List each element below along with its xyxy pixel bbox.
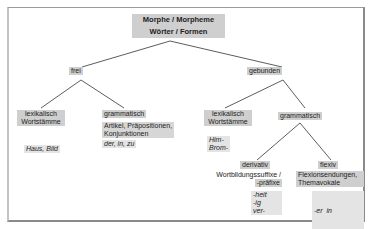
geb-lex-label2: Wortstämme [204,118,252,126]
node-gebunden-grammatisch: grammatisch [278,112,322,120]
frei-gram-label: grammatisch [102,110,146,118]
node-gebunden: gebunden [247,67,282,75]
frei-gram-example: der, in, zu [102,140,136,148]
frei-lex-label1: lexikalisch [17,110,65,118]
geb-lex-label1: lexikalisch [204,110,252,118]
frei-gram-desc: Artikel, Präpositionen, Konjunktionen [102,122,174,138]
derivativ-desc: Wortbildungssuffixe / -präfixe [205,171,282,187]
edge-root-frei [82,41,282,67]
edge-grammatisch-children [257,123,331,160]
derivativ-example: -heit -ig ver- [251,191,282,215]
frei-label: frei [69,67,83,75]
flexiv-example: -er in Kind-er -t in geh-t [312,191,364,229]
edge-frei-children [41,80,124,108]
node-frei-lexikalisch: lexikalisch Wortstämme [17,110,65,126]
geb-gram-label: grammatisch [278,112,322,120]
derivativ-label: derivativ [240,161,270,169]
frei-lex-example: Haus, Bild [24,145,60,153]
node-flexiv: flexiv [318,161,338,169]
flexiv-desc: Flexionsendungen, Themavokale [296,171,364,187]
gebunden-label: gebunden [247,67,282,75]
flexiv-label: flexiv [318,161,338,169]
node-frei-grammatisch: grammatisch [102,110,146,118]
root-line2: Wörter / Formen [132,26,225,38]
edge-gebunden-children [225,80,305,108]
frei-lex-label2: Wortstämme [17,118,65,126]
root-node: Morphe / Morpheme Wörter / Formen [132,14,225,38]
node-gebunden-lexikalisch: lexikalisch Wortstämme [204,110,252,126]
node-frei: frei [69,67,83,75]
root-line1: Morphe / Morpheme [132,14,225,26]
geb-lex-example: Him- Brom- [207,136,230,152]
node-derivativ: derivativ [240,161,270,169]
